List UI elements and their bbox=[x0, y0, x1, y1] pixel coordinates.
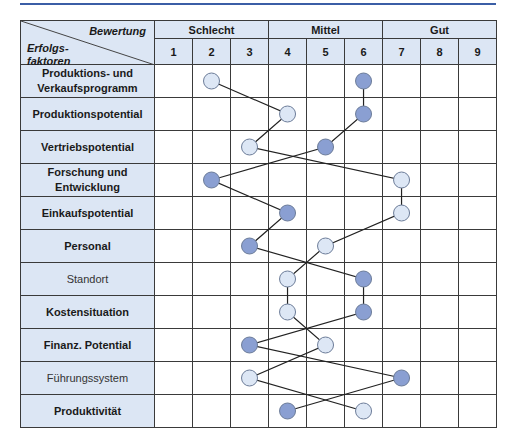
rating-cell bbox=[231, 263, 269, 296]
rating-cell bbox=[155, 65, 193, 98]
rating-cell bbox=[269, 395, 307, 428]
rating-cell bbox=[345, 395, 383, 428]
factor-label: Produktivität bbox=[21, 395, 155, 428]
rating-cell bbox=[231, 329, 269, 362]
rating-cell bbox=[459, 131, 497, 164]
rating-cell bbox=[155, 329, 193, 362]
rating-cell bbox=[459, 65, 497, 98]
rating-cell bbox=[307, 131, 345, 164]
rating-cell bbox=[155, 296, 193, 329]
rating-cell bbox=[345, 230, 383, 263]
factor-label: Produktions- und Verkaufsprogramm bbox=[21, 65, 155, 98]
rating-cell bbox=[193, 65, 231, 98]
rating-cell bbox=[307, 296, 345, 329]
factor-row: Forschung und Entwicklung bbox=[21, 164, 497, 197]
rating-cell bbox=[421, 263, 459, 296]
factor-label: Standort bbox=[21, 263, 155, 296]
scale-5: 5 bbox=[307, 39, 345, 65]
scale-4: 4 bbox=[269, 39, 307, 65]
rating-cell bbox=[155, 263, 193, 296]
rating-cell bbox=[421, 296, 459, 329]
rating-cell bbox=[345, 65, 383, 98]
rating-cell bbox=[345, 329, 383, 362]
rating-cell bbox=[459, 164, 497, 197]
rating-cell bbox=[193, 263, 231, 296]
rating-cell bbox=[421, 197, 459, 230]
rating-cell bbox=[269, 65, 307, 98]
rating-cell bbox=[345, 197, 383, 230]
rating-cell bbox=[269, 263, 307, 296]
scale-6: 6 bbox=[345, 39, 383, 65]
rating-cell bbox=[231, 164, 269, 197]
rating-cell bbox=[307, 263, 345, 296]
rating-cell bbox=[421, 65, 459, 98]
factor-label: Personal bbox=[21, 230, 155, 263]
factor-label: Kostensituation bbox=[21, 296, 155, 329]
rating-cell bbox=[459, 395, 497, 428]
factor-row: Personal bbox=[21, 230, 497, 263]
rating-cell bbox=[193, 230, 231, 263]
rating-cell bbox=[383, 329, 421, 362]
rating-cell bbox=[383, 164, 421, 197]
rating-cell bbox=[231, 65, 269, 98]
rating-cell bbox=[459, 230, 497, 263]
rating-cell bbox=[383, 197, 421, 230]
rating-cell bbox=[269, 164, 307, 197]
rating-cell bbox=[231, 362, 269, 395]
rating-cell bbox=[269, 131, 307, 164]
factor-row: Kostensituation bbox=[21, 296, 497, 329]
factor-row: Produktionspotential bbox=[21, 98, 497, 131]
rating-cell bbox=[421, 98, 459, 131]
factor-label: Forschung und Entwicklung bbox=[21, 164, 155, 197]
rating-cell bbox=[269, 98, 307, 131]
rating-cell bbox=[307, 98, 345, 131]
rating-cell bbox=[459, 197, 497, 230]
rating-cell bbox=[307, 329, 345, 362]
rating-cell bbox=[155, 98, 193, 131]
rating-cell bbox=[155, 164, 193, 197]
rating-cell bbox=[345, 131, 383, 164]
rating-cell bbox=[421, 362, 459, 395]
factor-row: Standort bbox=[21, 263, 497, 296]
profile-table: Bewertung Erfolgs-faktoren Schlecht Mitt… bbox=[20, 20, 497, 428]
factor-row: Finanz. Potential bbox=[21, 329, 497, 362]
factor-label: Vertriebspotential bbox=[21, 131, 155, 164]
rating-cell bbox=[459, 329, 497, 362]
rating-axis-label: Bewertung bbox=[89, 25, 146, 37]
rating-cell bbox=[155, 362, 193, 395]
factor-row: Produktions- und Verkaufsprogramm bbox=[21, 65, 497, 98]
rating-cell bbox=[345, 362, 383, 395]
factor-row: Einkaufspotential bbox=[21, 197, 497, 230]
rating-cell bbox=[193, 329, 231, 362]
rating-cell bbox=[383, 230, 421, 263]
rating-cell bbox=[269, 362, 307, 395]
rating-cell bbox=[269, 296, 307, 329]
rating-cell bbox=[155, 131, 193, 164]
rating-cell bbox=[193, 362, 231, 395]
rating-cell bbox=[383, 131, 421, 164]
factor-label: Führungssystem bbox=[21, 362, 155, 395]
rating-cell bbox=[155, 395, 193, 428]
rating-cell bbox=[383, 98, 421, 131]
group-mittel: Mittel bbox=[269, 21, 383, 39]
rating-cell bbox=[155, 230, 193, 263]
rating-cell bbox=[345, 296, 383, 329]
rating-cell bbox=[459, 362, 497, 395]
top-rule bbox=[20, 3, 496, 5]
rating-cell bbox=[231, 98, 269, 131]
rating-cell bbox=[231, 131, 269, 164]
rating-cell bbox=[231, 230, 269, 263]
scale-8: 8 bbox=[421, 39, 459, 65]
rating-cell bbox=[193, 131, 231, 164]
rating-cell bbox=[421, 395, 459, 428]
rating-cell bbox=[193, 296, 231, 329]
factor-axis-label: Erfolgs-faktoren bbox=[27, 42, 70, 68]
rating-cell bbox=[231, 197, 269, 230]
rating-cell bbox=[231, 395, 269, 428]
factor-label: Produktionspotential bbox=[21, 98, 155, 131]
scale-3: 3 bbox=[231, 39, 269, 65]
scale-7: 7 bbox=[383, 39, 421, 65]
rating-cell bbox=[269, 197, 307, 230]
rating-cell bbox=[383, 362, 421, 395]
scale-1: 1 bbox=[155, 39, 193, 65]
